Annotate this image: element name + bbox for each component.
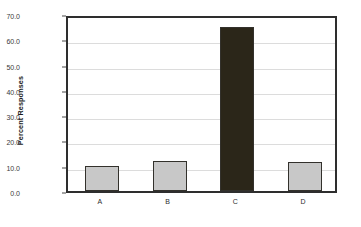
plot-area — [66, 16, 337, 193]
x-axis-tick-label: D — [301, 198, 306, 205]
bar[interactable] — [85, 166, 119, 191]
y-axis-tick-label: 20.0 — [0, 139, 20, 146]
bars-group — [68, 18, 335, 191]
y-axis-tick-mark — [62, 16, 66, 17]
y-axis-tick-mark — [62, 41, 66, 42]
y-axis-tick-label: 0.0 — [0, 190, 20, 197]
bar-chart-figure: Percent Responses 0.010.020.030.040.050.… — [0, 0, 361, 227]
x-axis-tick-label: B — [165, 198, 170, 205]
x-axis-tick-label: C — [233, 198, 238, 205]
bar-slot — [204, 18, 272, 191]
bar-slot — [68, 18, 136, 191]
bar[interactable] — [220, 27, 254, 191]
bar[interactable] — [288, 162, 322, 191]
bar-slot — [136, 18, 204, 191]
y-axis-tick-mark — [62, 117, 66, 118]
bar-slot — [271, 18, 339, 191]
y-axis-tick-label: 40.0 — [0, 88, 20, 95]
x-axis-tick-label: A — [98, 198, 103, 205]
y-axis-tick-mark — [62, 193, 66, 194]
y-axis-tick-label: 30.0 — [0, 114, 20, 121]
y-axis-tick-label: 50.0 — [0, 63, 20, 70]
y-axis-title-text: Percent Responses — [17, 75, 26, 144]
y-axis-tick-label: 70.0 — [0, 13, 20, 20]
y-axis-tick-label: 60.0 — [0, 38, 20, 45]
y-axis-tick-mark — [62, 167, 66, 168]
plot-inner — [68, 18, 335, 191]
y-axis-tick-mark — [62, 142, 66, 143]
bar[interactable] — [153, 161, 187, 191]
y-axis-tick-mark — [62, 66, 66, 67]
y-axis-tick-mark — [62, 91, 66, 92]
y-axis-tick-label: 10.0 — [0, 164, 20, 171]
